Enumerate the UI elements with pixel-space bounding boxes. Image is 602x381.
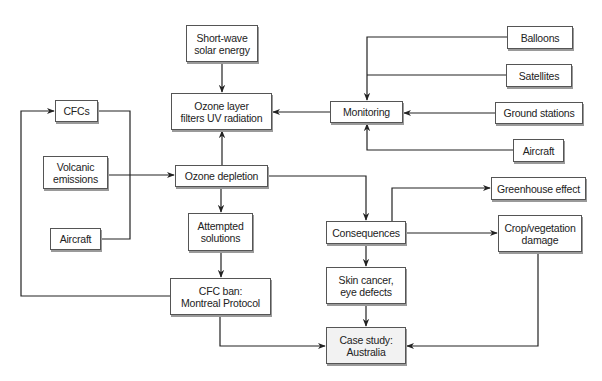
node-shortwave-solar-energy: Short-wave solar energy — [186, 25, 258, 62]
node-satellites: Satellites — [506, 64, 572, 87]
edge-balloons-monitoring — [367, 37, 507, 100]
edge-crop-case — [407, 252, 538, 346]
node-balloons: Balloons — [507, 26, 573, 49]
node-cfcs: CFCs — [55, 100, 98, 122]
node-case-study-australia: Case study: Australia — [326, 327, 406, 364]
edge-cfcban-case — [220, 315, 325, 346]
node-crop-vegetation-damage: Crop/vegetation damage — [498, 215, 582, 252]
edge-consequences-greenhouse — [392, 188, 490, 221]
node-ozone-layer: Ozone layer filters UV radiation — [171, 93, 272, 130]
node-consequences: Consequences — [326, 221, 406, 244]
node-greenhouse-effect: Greenhouse effect — [491, 177, 586, 200]
node-monitoring: Monitoring — [330, 101, 403, 123]
node-ozone-depletion: Ozone depletion — [175, 165, 268, 187]
node-aircraft-right: Aircraft — [513, 139, 564, 162]
node-volcanic-emissions: Volcanic emissions — [43, 156, 108, 189]
node-aircraft-left: Aircraft — [50, 228, 101, 250]
node-attempted-solutions: Attempted solutions — [188, 213, 253, 251]
edge-aircraft-monitoring — [367, 124, 513, 150]
edge-depletion-consequences — [268, 176, 366, 220]
node-ground-stations: Ground stations — [495, 102, 583, 124]
node-skin-cancer: Skin cancer, eye defects — [326, 267, 406, 304]
node-cfc-ban: CFC ban: Montreal Protocol — [170, 278, 271, 315]
edge-cfcban-cfcs — [21, 111, 170, 296]
